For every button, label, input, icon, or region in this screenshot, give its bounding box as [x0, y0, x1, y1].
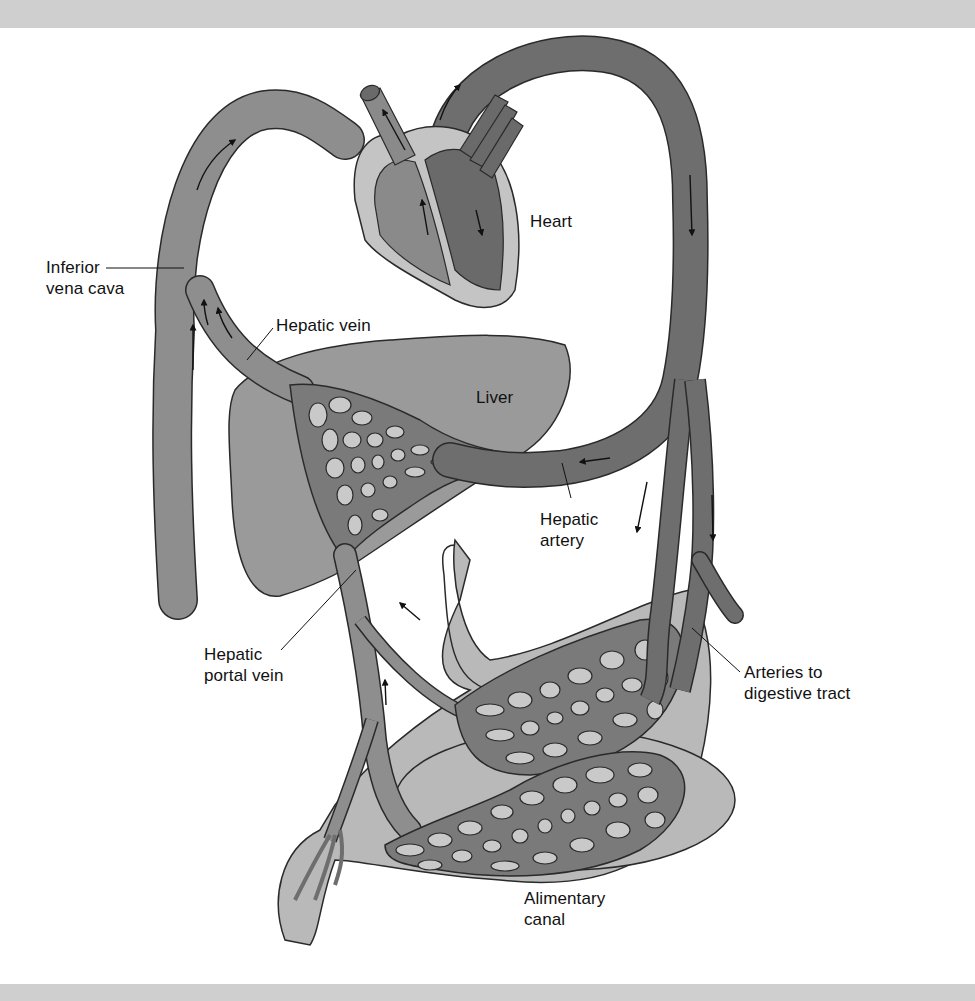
label-heart: Heart [530, 211, 572, 232]
arrow-portal-upper-icon [400, 603, 420, 620]
hepatic-portal-circulation-diagram [0, 0, 975, 1001]
hepatic-vein [200, 290, 300, 390]
label-arteries-to-digestive-tract: Arteries to digestive tract [744, 662, 850, 704]
label-hepatic-portal-vein: Hepatic portal vein [204, 644, 284, 686]
label-hepatic-vein: Hepatic vein [276, 315, 371, 336]
label-alimentary-canal: Alimentary canal [524, 888, 605, 930]
arrow-digestive-artery-icon [712, 495, 713, 540]
label-hepatic-artery: Hepatic artery [540, 509, 598, 551]
arrow-hepatic-artery-down-icon [637, 482, 647, 532]
arrow-portal-lower-icon [385, 680, 386, 705]
label-liver: Liver [476, 387, 513, 408]
label-inferior-vena-cava: Inferior vena cava [46, 257, 124, 299]
